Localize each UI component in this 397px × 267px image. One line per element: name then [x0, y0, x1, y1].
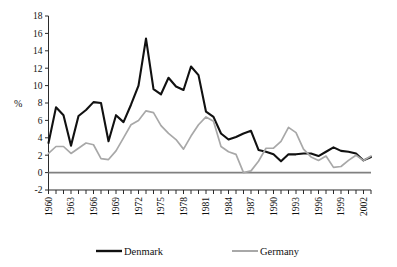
y-axis-unit-label: %: [14, 98, 22, 109]
legend-label-germany: Germany: [260, 246, 300, 257]
x-tick-label: 1978: [179, 197, 189, 216]
y-tick-label: 10: [33, 81, 43, 91]
y-tick-label: -2: [35, 185, 43, 195]
legend-label-denmark: Denmark: [124, 246, 164, 257]
x-tick-label: 1987: [246, 197, 256, 216]
x-tick-label: 1975: [156, 197, 166, 216]
x-tick-label: 1969: [111, 197, 121, 216]
x-tick-label: 1966: [89, 197, 99, 216]
y-tick-label: 6: [38, 116, 43, 126]
x-tick-label: 1960: [44, 197, 54, 216]
y-tick-label: 4: [38, 133, 43, 143]
x-tick-label: 1972: [134, 197, 144, 216]
x-tick-label: 1993: [291, 197, 301, 216]
y-axis-unit-text: %: [14, 98, 22, 109]
y-axis: 181614121086420-2: [33, 11, 371, 195]
x-tick-label: 1996: [314, 197, 324, 216]
x-tick-label: 1984: [224, 197, 234, 216]
x-tick-label: 1990: [269, 197, 279, 216]
y-tick-label: 12: [33, 64, 43, 74]
chart-canvas: 181614121086420-2 1960196319661969197219…: [0, 0, 397, 267]
y-tick-label: 8: [38, 98, 43, 108]
x-tick-label: 1981: [201, 197, 211, 216]
y-tick-label: 2: [38, 151, 43, 161]
x-tick-label: 1963: [66, 197, 76, 216]
series-line-germany: [49, 111, 372, 173]
inflation-line-chart: 181614121086420-2 1960196319661969197219…: [0, 0, 397, 267]
y-tick-label: 14: [33, 46, 43, 56]
series-lines: [49, 39, 372, 173]
series-line-denmark: [49, 39, 372, 162]
x-tick-label: 2002: [359, 197, 369, 216]
x-axis: 1960196319661969197219751978198119841987…: [44, 190, 371, 216]
y-tick-label: 16: [33, 29, 43, 39]
chart-legend: DenmarkGermany: [96, 246, 300, 257]
y-tick-label: 0: [38, 168, 43, 178]
y-tick-label: 18: [33, 11, 43, 21]
x-tick-label: 1999: [336, 197, 346, 216]
